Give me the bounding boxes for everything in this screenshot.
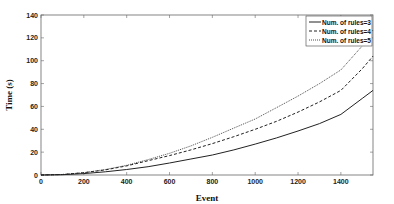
x-tick-label: 600 <box>164 178 176 185</box>
line-chart: 020406080100120140 020040060080010001200… <box>0 0 394 204</box>
x-tick-label: 200 <box>78 178 90 185</box>
y-tick-label: 40 <box>30 126 38 133</box>
y-tick-label: 60 <box>30 103 38 110</box>
legend-label-rules-5: Num. of rules=5 <box>322 37 371 44</box>
x-tick-label: 0 <box>39 178 43 185</box>
legend-label-rules-4: Num. of rules=4 <box>322 28 371 35</box>
x-tick-label: 1000 <box>247 178 263 185</box>
x-tick-label: 400 <box>121 178 133 185</box>
y-tick-label: 0 <box>34 172 38 179</box>
y-tick-label: 120 <box>26 34 38 41</box>
x-tick-label: 800 <box>207 178 219 185</box>
y-tick-label: 80 <box>30 80 38 87</box>
x-tick-label: 1400 <box>333 178 349 185</box>
y-axis-title: Time (s) <box>4 79 14 111</box>
x-tick-label: 1200 <box>290 178 306 185</box>
legend: Num. of rules=3 Num. of rules=4 Num. of … <box>306 16 372 46</box>
y-tick-label: 20 <box>30 149 38 156</box>
x-axis-title: Event <box>196 193 219 203</box>
legend-label-rules-3: Num. of rules=3 <box>322 19 371 26</box>
y-tick-label: 100 <box>26 57 38 64</box>
y-tick-label: 140 <box>26 12 38 19</box>
